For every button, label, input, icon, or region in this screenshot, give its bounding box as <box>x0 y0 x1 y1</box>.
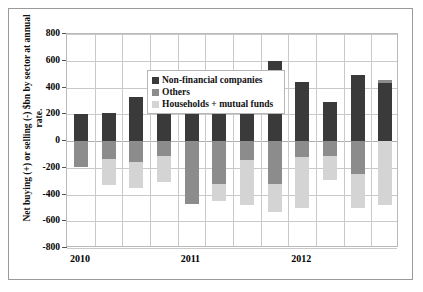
bar-segment <box>323 102 337 141</box>
x-axis-tick-label: 2010 <box>70 253 90 264</box>
y-axis-tick-label: 400 <box>16 82 60 92</box>
gridline-horizontal <box>67 34 397 35</box>
bar-segment <box>240 141 254 160</box>
legend-item: Others <box>152 86 280 98</box>
bar-segment <box>323 141 337 156</box>
bar-segment <box>268 141 282 184</box>
bar-group <box>185 34 199 248</box>
bar-segment <box>240 160 254 205</box>
bar-group <box>240 34 254 248</box>
bar-segment <box>295 82 309 141</box>
bar-group <box>268 34 282 248</box>
bar-group <box>102 34 116 248</box>
bar-group <box>157 34 171 248</box>
legend-label: Non-financial companies <box>162 75 263 85</box>
gridline-horizontal <box>67 221 397 222</box>
bar-segment <box>185 141 199 204</box>
bar-segment <box>378 80 392 83</box>
y-axis-tick-label: -200 <box>16 162 60 172</box>
y-axis-tick-label: -600 <box>16 215 60 225</box>
bar-segment <box>212 141 226 184</box>
gridline-horizontal <box>67 141 397 142</box>
x-axis-tick-label: 2011 <box>181 253 200 264</box>
bar-segment <box>212 184 226 201</box>
y-axis-tick-label: 800 <box>16 28 60 38</box>
bar-segment <box>102 141 116 159</box>
gridline-horizontal <box>67 248 397 249</box>
bar-segment <box>102 159 116 185</box>
bar-segment <box>351 174 365 207</box>
gridline-vertical <box>316 34 317 246</box>
gridline-vertical <box>95 34 96 246</box>
y-axis-tick-label: 200 <box>16 108 60 118</box>
legend-swatch-others <box>152 89 159 96</box>
bar-group <box>323 34 337 248</box>
y-axis-tick-label: -400 <box>16 189 60 199</box>
bar-group <box>129 34 143 248</box>
legend-item: Non-financial companies <box>152 74 280 86</box>
gridline-vertical <box>150 34 151 246</box>
bar-segment <box>102 113 116 141</box>
legend-label: Others <box>162 87 190 97</box>
gridline-horizontal <box>67 168 397 169</box>
bar-group <box>351 34 365 248</box>
gridline-vertical <box>233 34 234 246</box>
bar-segment <box>129 141 143 162</box>
bar-segment <box>74 114 88 141</box>
chart-legend: Non-financial companies Others Household… <box>147 70 285 114</box>
bar-segment <box>268 184 282 211</box>
y-axis-tick-label: 0 <box>16 135 60 145</box>
bar-segment <box>157 141 171 156</box>
legend-item: Households + mutual funds <box>152 98 280 110</box>
bar-segment <box>295 141 309 157</box>
bar-group <box>212 34 226 248</box>
y-axis-tick-label: -800 <box>16 242 60 252</box>
plot-area: Non-financial companies Others Household… <box>66 33 398 247</box>
gridline-vertical <box>288 34 289 246</box>
bar-segment <box>295 157 309 208</box>
bar-segment <box>129 97 143 141</box>
bar-segment <box>378 141 392 205</box>
bar-segment <box>129 162 143 189</box>
bar-group <box>378 34 392 248</box>
x-axis-tick-label: 2012 <box>291 253 311 264</box>
bar-segment <box>351 75 365 141</box>
legend-label: Households + mutual funds <box>162 99 273 109</box>
gridline-vertical <box>122 34 123 246</box>
bar-segment <box>157 156 171 183</box>
gridline-vertical <box>205 34 206 246</box>
legend-swatch-households-mutual-funds <box>152 101 159 108</box>
gridline-horizontal <box>67 114 397 115</box>
gridline-vertical <box>344 34 345 246</box>
gridline-horizontal <box>67 195 397 196</box>
legend-swatch-non-financial-companies <box>152 77 159 84</box>
bar-segment <box>323 156 337 179</box>
y-axis-tick-label: 600 <box>16 55 60 65</box>
gridline-vertical <box>261 34 262 246</box>
chart-figure: Net buying (+) or selling (-) $bn by sec… <box>0 0 423 292</box>
bar-segment <box>351 141 365 174</box>
bar-group <box>295 34 309 248</box>
gridline-vertical <box>178 34 179 246</box>
bar-group <box>74 34 88 248</box>
bar-segment <box>378 83 392 141</box>
bar-segment <box>74 141 88 167</box>
gridline-horizontal <box>67 61 397 62</box>
gridline-vertical <box>371 34 372 246</box>
